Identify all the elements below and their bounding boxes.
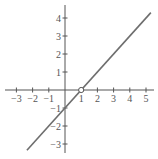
line-y-equals-x-minus-1 <box>27 13 151 151</box>
y-tick-label: −3 <box>50 139 61 150</box>
x-tick-label: −2 <box>27 93 38 104</box>
x-tick-label: 3 <box>111 93 116 104</box>
y-tick-label: 1 <box>56 67 61 78</box>
function-graph: −3−2−112345 −3−2−11234 <box>0 0 158 159</box>
annotations <box>79 87 84 92</box>
y-tick-label: −1 <box>50 103 61 114</box>
x-tick-label: 2 <box>95 93 100 104</box>
x-tick-label: 1 <box>79 93 84 104</box>
x-tick-label: 5 <box>144 93 149 104</box>
y-tick-label: 4 <box>56 13 61 24</box>
x-tick-label: −3 <box>11 93 22 104</box>
x-tick-label: 4 <box>127 93 132 104</box>
open-circle-hole <box>79 87 84 92</box>
y-tick-label: 2 <box>56 49 61 60</box>
y-tick-label: 3 <box>56 31 61 42</box>
axes <box>5 5 154 153</box>
